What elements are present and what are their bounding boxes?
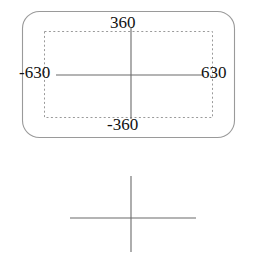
- axis-label-bottom: -360: [107, 116, 138, 133]
- axis-label-top: 360: [110, 14, 136, 31]
- coordinate-axes-graphics: [0, 150, 257, 275]
- bounded-area-diagram: 360 -630 630 -360: [0, 0, 257, 150]
- coordinate-axes-diagram: (0,360) (-630,0) (630,0) (0,0) (0,-360): [0, 150, 257, 275]
- axis-label-left: -630: [19, 64, 50, 81]
- axis-label-right: 630: [201, 64, 227, 81]
